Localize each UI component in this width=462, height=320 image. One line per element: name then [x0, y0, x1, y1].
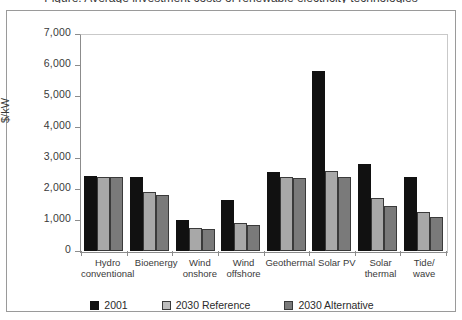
x-axis-label: Hydroconventional	[81, 257, 134, 279]
bar-groups	[81, 34, 446, 251]
bar	[234, 223, 247, 251]
bar	[267, 172, 280, 251]
bar	[247, 225, 260, 251]
x-axis-label: Tide/wave	[402, 257, 446, 279]
x-axis-label-line: Solar	[359, 257, 403, 268]
bar	[176, 220, 189, 251]
legend-swatch	[162, 301, 171, 310]
bar	[156, 195, 169, 251]
x-axis-tick-mark	[446, 251, 447, 256]
y-axis-tick-mark	[75, 96, 80, 97]
y-axis-tick-mark	[75, 34, 80, 35]
bar	[221, 200, 234, 251]
bar-group	[127, 34, 173, 251]
x-axis-label-line: conventional	[81, 268, 134, 279]
y-axis-title: $/kW	[0, 98, 11, 123]
x-axis-label: Solarthermal	[359, 257, 403, 279]
y-axis-tick-label: 0	[65, 243, 71, 255]
y-axis-tick-label: 2,000	[44, 181, 71, 193]
bar	[143, 192, 156, 251]
x-axis-label-line: Solar PV	[315, 257, 359, 268]
bar-group	[172, 34, 218, 251]
x-axis-ticks	[81, 251, 446, 256]
x-axis-label-line: Hydro	[81, 257, 134, 268]
bar	[280, 177, 293, 251]
y-axis-tick-mark	[75, 251, 80, 252]
bar-group	[309, 34, 355, 251]
y-axis-tick-label: 5,000	[44, 88, 71, 100]
legend-swatch	[90, 301, 99, 310]
bar	[189, 228, 202, 251]
x-axis-label: Windonshore	[178, 257, 222, 279]
x-axis-tick-mark	[400, 251, 401, 256]
bar	[130, 177, 143, 251]
bar-group	[264, 34, 310, 251]
bar-group	[218, 34, 264, 251]
y-axis-tick-label: 6,000	[44, 57, 71, 69]
y-axis-tick-mark	[75, 189, 80, 190]
x-axis-tick-mark	[127, 251, 128, 256]
x-axis-label-line: Tide/	[402, 257, 446, 268]
bar	[404, 177, 417, 251]
clipped-figure-title: Figure: Average investment costs of rene…	[0, 0, 462, 3]
bar	[384, 206, 397, 251]
x-axis-tick-mark	[218, 251, 219, 256]
bar	[312, 71, 325, 251]
y-axis-tick-mark	[75, 65, 80, 66]
y-axis-tick-mark	[75, 158, 80, 159]
bar-group	[400, 34, 446, 251]
x-axis-tick-mark	[172, 251, 173, 256]
bar	[338, 177, 351, 251]
x-axis-label-line: wave	[402, 268, 446, 279]
legend-item: 2001	[90, 299, 127, 311]
y-axis-tick-mark	[75, 220, 80, 221]
figure-frame: 7,0006,0005,0004,0003,0002,0001,0000 $/k…	[6, 10, 456, 312]
y-axis-tick-mark	[75, 127, 80, 128]
x-axis-tick-mark	[81, 251, 82, 256]
bar	[202, 229, 215, 251]
legend-label: 2030 Reference	[176, 299, 251, 311]
bar-chart: 7,0006,0005,0004,0003,0002,0001,0000 $/k…	[7, 11, 457, 313]
bar	[358, 164, 371, 251]
legend-label: 2001	[104, 299, 127, 311]
bar	[97, 177, 110, 251]
x-axis-tick-mark	[355, 251, 356, 256]
bar	[84, 176, 97, 251]
chart-legend: 20012030 Reference2030 Alternative	[7, 299, 457, 311]
x-axis-label: Solar PV	[315, 257, 359, 279]
x-axis-label: Windoffshore	[222, 257, 266, 279]
legend-label: 2030 Alternative	[298, 299, 373, 311]
legend-item: 2030 Reference	[162, 299, 251, 311]
legend-item: 2030 Alternative	[284, 299, 373, 311]
x-axis-label-line: Geothermal	[265, 257, 315, 268]
bar	[430, 217, 443, 251]
bar-group	[355, 34, 401, 251]
legend-swatch	[284, 301, 293, 310]
x-axis-label-line: offshore	[222, 268, 266, 279]
x-axis-tick-mark	[309, 251, 310, 256]
y-axis-tick-label: 7,000	[44, 26, 71, 38]
x-axis-label: Bioenergy	[134, 257, 178, 279]
y-axis-tick-label: 3,000	[44, 150, 71, 162]
x-axis-label-line: Wind	[222, 257, 266, 268]
bar	[325, 171, 338, 251]
x-axis-label-line: Bioenergy	[134, 257, 178, 268]
x-axis-tick-mark	[264, 251, 265, 256]
bar	[110, 177, 123, 251]
bar	[293, 178, 306, 251]
x-axis-label: Geothermal	[265, 257, 315, 279]
y-axis-tick-label: 1,000	[44, 212, 71, 224]
bar	[371, 198, 384, 251]
x-axis-label-line: Wind	[178, 257, 222, 268]
x-axis-label-line: thermal	[359, 268, 403, 279]
bar	[417, 212, 430, 251]
y-axis-tick-label: 4,000	[44, 119, 71, 131]
x-axis-labels: HydroconventionalBioenergyWindonshoreWin…	[81, 257, 446, 279]
x-axis-label-line: onshore	[178, 268, 222, 279]
bar-group	[81, 34, 127, 251]
